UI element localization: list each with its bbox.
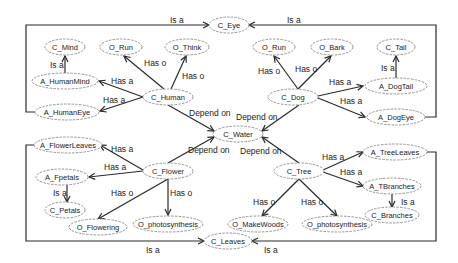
edge-label: Depend on	[240, 146, 282, 156]
node-label: A_FlowerLeaves	[40, 141, 96, 150]
edge-label: Is a	[170, 15, 184, 25]
edge-label: Has o	[182, 71, 204, 81]
ontology-diagram: Is aIs aIs aHas oHas oHas aHas aDepend o…	[0, 0, 458, 263]
edge-label: Depend on	[188, 145, 230, 155]
node-label: C_Human	[151, 93, 185, 102]
node-c-eye: C_Eye	[209, 17, 249, 33]
node-label: O_Bark	[319, 43, 345, 52]
node-label: A_Fpetals	[45, 173, 79, 182]
node-a-treeleaves: A_TreeLeaves	[363, 144, 427, 160]
node-c-tree: C_Tree	[274, 163, 324, 179]
edge-label: Has a	[329, 77, 351, 87]
node-label: O_photosynthesis	[138, 220, 198, 229]
node-a-dogeye: A_DogEye	[367, 109, 425, 125]
node-o-think: O_Think	[165, 39, 209, 55]
edge-label: Has a	[111, 144, 133, 154]
edge-c-dog-to-a-dogeye: Has a	[318, 96, 365, 117]
edge-label: Has a	[340, 96, 362, 106]
edge-c-tree-to-o-photosynthesis-t: Has o	[299, 179, 337, 216]
edge-label: Depend on	[189, 108, 231, 118]
edge-label: Has a	[322, 152, 344, 162]
node-c-leaves: C_Leaves	[204, 233, 252, 249]
edge-label: Has o	[170, 188, 192, 198]
node-label: C_Dog	[281, 93, 304, 102]
edge-c-tail-to-a-dogtail: Is a	[381, 56, 396, 78]
edge-label: Has a	[340, 167, 362, 177]
node-c-branches: C_Branches	[365, 207, 419, 223]
node-label: A_TBranches	[369, 182, 415, 191]
node-label: A_HumanEye	[44, 108, 90, 117]
edge-c-flower-to-a-fpetals: Has a	[89, 162, 143, 177]
edge-line	[318, 86, 363, 96]
node-o-photosynthesis-t: O_photosynthesis	[302, 216, 372, 232]
node-a-humaneye: A_HumanEye	[35, 104, 99, 120]
node-label: C_Flower	[152, 167, 185, 176]
node-label: C_Eye	[218, 21, 241, 30]
edge-c-dog-to-a-dogtail: Has a	[318, 77, 363, 96]
node-label: C_Branches	[371, 211, 413, 220]
node-label: O_Run	[109, 43, 133, 52]
node-a-flowerleaves: A_FlowerLeaves	[34, 137, 102, 153]
node-label: C_Mind	[52, 43, 78, 52]
node-o-bark: O_Bark	[311, 39, 353, 55]
edge-c-tree-to-a-tbranches: Has a	[323, 167, 363, 186]
edge-label: Has a	[111, 76, 133, 86]
node-a-humanmind: A_HumanMind	[32, 73, 98, 89]
node-c-water: C_Water	[213, 126, 263, 142]
edge-label: Is a	[381, 63, 395, 73]
edge-c-human-to-o-think: Has o	[171, 56, 204, 89]
node-label: O_photosynthesis	[307, 220, 367, 229]
edge-label: Has o	[144, 58, 166, 68]
node-o-makewoods: O_MakeWoods	[228, 216, 288, 232]
node-a-tbranches: A_TBranches	[363, 178, 421, 194]
edge-a-humanmind-to-c-mind: Is a	[50, 56, 65, 73]
edge-label: Is a	[264, 245, 278, 255]
edge-label: Has o	[253, 197, 275, 207]
node-label: A_HumanMind	[40, 77, 90, 86]
edge-label: Depend on	[236, 112, 278, 122]
edge-label: Is a	[287, 15, 301, 25]
node-label: C_Petals	[50, 206, 81, 215]
node-label: A_DogEye	[378, 113, 414, 122]
edge-c-flower-to-o-flowering: Has o	[98, 179, 168, 219]
edge-c-human-to-a-humaneye: Has a	[100, 95, 143, 111]
node-c-mind: C_Mind	[45, 39, 85, 55]
edge-label: Has o	[295, 64, 317, 74]
node-c-petals: C_Petals	[45, 202, 85, 218]
node-a-dogtail: A_DogTail	[365, 78, 427, 94]
node-o-run-h: O_Run	[100, 39, 142, 55]
node-o-run-d: O_Run	[253, 39, 295, 55]
edge-c-flower-to-c-water: Depend on	[168, 137, 230, 163]
node-label: C_Water	[223, 130, 253, 139]
node-label: O_Flowering	[77, 223, 120, 232]
node-c-dog: C_Dog	[268, 89, 318, 105]
edge-c-dog-to-o-run-d: Has o	[258, 56, 298, 89]
edge-label: Is a	[401, 197, 415, 207]
node-c-human: C_Human	[143, 89, 193, 105]
edge-label: Has a	[103, 95, 125, 105]
node-o-flowering: O_Flowering	[69, 219, 127, 235]
edge-label: Has o	[258, 66, 280, 76]
node-a-fpetals: A_Fpetals	[36, 169, 88, 185]
edge-label: Has a	[104, 162, 126, 172]
edge-label: Is a	[146, 245, 160, 255]
node-label: C_Tree	[287, 167, 312, 176]
edge-label: Has o	[111, 188, 133, 198]
edge-c-human-to-a-humanmind: Has a	[99, 76, 143, 97]
node-label: O_Run	[262, 43, 286, 52]
edge-label: Is a	[53, 188, 67, 198]
node-label: C_Tail	[386, 43, 407, 52]
edge-c-dog-to-o-bark: Has o	[295, 56, 331, 89]
node-label: A_TreeLeaves	[371, 148, 420, 157]
node-o-photosynthesis-f: O_photosynthesis	[133, 216, 203, 232]
edge-c-flower-to-o-photosynthesis-f: Has o	[168, 179, 192, 215]
edge-label: Has o	[301, 197, 323, 207]
edge-c-human-to-c-water: Depend on	[168, 105, 231, 131]
edge-line	[98, 179, 168, 219]
edge-a-fpetals-to-c-petals: Is a	[53, 185, 67, 202]
node-c-tail: C_Tail	[377, 39, 415, 55]
node-label: A_DogTail	[379, 82, 414, 91]
node-label: C_Leaves	[211, 237, 245, 246]
node-label: O_MakeWoods	[232, 220, 284, 229]
edge-a-tbranches-to-c-branches: Is a	[392, 194, 415, 207]
